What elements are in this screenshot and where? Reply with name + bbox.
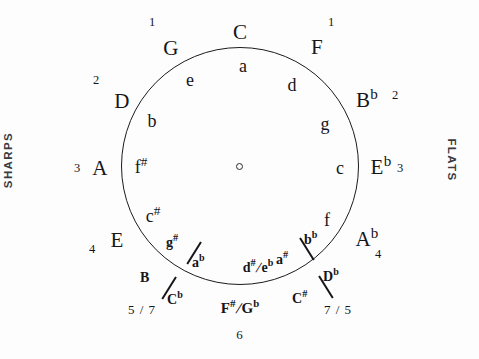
major-key-F: F bbox=[311, 37, 323, 58]
major-key-Bb-letter: B bbox=[356, 88, 370, 112]
sharps-side-label: SHARPS bbox=[2, 132, 14, 188]
center-dot-marker bbox=[236, 163, 243, 170]
major-key-D: D bbox=[114, 91, 129, 112]
major-key-Bb: Bb bbox=[356, 90, 378, 111]
sharp-icon: # bbox=[283, 249, 288, 260]
flat-icon: b bbox=[371, 225, 379, 241]
flat-icon: b bbox=[312, 229, 318, 240]
flat-icon: b bbox=[268, 257, 274, 268]
minor-key-f-sharp: f# bbox=[135, 158, 148, 176]
flats-side-label: FLATS bbox=[446, 138, 458, 181]
major-key-A: A bbox=[92, 158, 107, 179]
count-flats-3: 3 bbox=[397, 162, 403, 175]
count-sharps-1: 1 bbox=[149, 16, 155, 29]
minor-key-c-sharp: c# bbox=[146, 207, 161, 225]
flat-icon: b bbox=[384, 153, 392, 169]
major-key-B: B bbox=[140, 271, 149, 285]
major-enharmonic-Fsharp-Gflat: F#/Gb bbox=[221, 301, 260, 316]
major-key-C-flat: Cb bbox=[167, 293, 183, 307]
count-sharps-4: 4 bbox=[89, 243, 95, 256]
count-flats-1: 1 bbox=[328, 16, 334, 29]
circle-of-fifths-diagram: SHARPS FLATS C G D A E F Bb Eb Ab a e b … bbox=[0, 0, 479, 359]
flat-icon: b bbox=[199, 252, 205, 263]
minor-key-e-flat: eb bbox=[262, 260, 274, 275]
major-key-D-flat: Db bbox=[323, 270, 339, 284]
flat-icon: b bbox=[177, 289, 183, 300]
major-key-G: G bbox=[163, 38, 178, 59]
major-key-G-flat: Gb bbox=[242, 300, 260, 316]
minor-key-g-sharp: g# bbox=[166, 236, 178, 250]
major-key-E: E bbox=[110, 230, 123, 251]
count-sharps-3: 3 bbox=[74, 162, 80, 175]
minor-enharmonic-dsharp-eflat: d#/eb bbox=[243, 261, 274, 275]
minor-key-c: c bbox=[336, 159, 344, 177]
minor-key-b: b bbox=[148, 112, 157, 130]
minor-key-f: f bbox=[324, 211, 330, 229]
minor-key-a-flat: ab bbox=[192, 256, 205, 270]
minor-key-a: a bbox=[239, 57, 247, 75]
flat-icon: b bbox=[253, 297, 259, 309]
count-6: 6 bbox=[236, 328, 244, 341]
minor-key-a-sharp: a# bbox=[276, 253, 288, 267]
minor-key-d: d bbox=[288, 76, 297, 94]
sharp-icon: # bbox=[141, 154, 148, 169]
count-sharps-5-7: 5 / 7 bbox=[128, 303, 156, 316]
count-flats-2: 2 bbox=[392, 89, 398, 102]
count-flats-4: 4 bbox=[375, 248, 381, 261]
major-key-C: C bbox=[233, 22, 247, 43]
minor-key-g: g bbox=[321, 115, 330, 133]
sharp-icon: # bbox=[173, 232, 178, 243]
flat-icon: b bbox=[370, 86, 378, 102]
major-key-Eb: Eb bbox=[371, 157, 392, 178]
sharp-icon: # bbox=[154, 203, 161, 218]
count-sharps-2: 2 bbox=[93, 74, 99, 87]
major-key-Ab-letter: A bbox=[355, 227, 370, 251]
major-key-Eb-letter: E bbox=[371, 155, 384, 179]
count-flats-7-5: 7 / 5 bbox=[324, 303, 352, 316]
minor-key-c-sharp-letter: c bbox=[146, 206, 154, 226]
major-key-C-sharp: C# bbox=[292, 292, 307, 306]
minor-key-e: e bbox=[186, 71, 194, 89]
sharp-icon: # bbox=[302, 288, 307, 299]
sharp-icon: # bbox=[230, 297, 236, 309]
flat-icon: b bbox=[333, 266, 339, 277]
